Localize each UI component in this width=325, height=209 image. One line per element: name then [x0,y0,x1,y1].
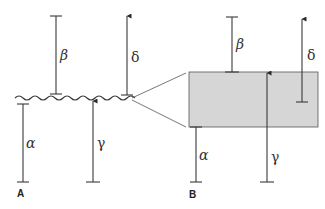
alpha-label-b: α [199,147,209,163]
panel-label-b: B [189,189,196,200]
diagram-canvas: α β γ δ A [0,0,325,209]
beta-bar-b: β [225,17,244,72]
delta-label-b: δ [307,47,315,63]
alpha-label-a: α [26,135,36,151]
alpha-bar-b: α [190,127,209,182]
beta-label-a: β [59,47,68,63]
panel-a: α β γ δ A [15,16,139,199]
wavy-surface-line [15,96,135,100]
gamma-label-a: γ [97,135,105,151]
delta-arrow-a: δ [121,16,139,95]
beta-label-b: β [235,36,244,52]
shaded-band [189,72,318,127]
panel-b: β γ δ α B [189,17,318,200]
alpha-bar-a: α [17,104,36,182]
delta-label-a: δ [131,49,139,65]
panel-label-a: A [17,188,24,199]
gamma-label-b: γ [271,149,279,165]
beta-bar-a: β [50,16,68,94]
gamma-arrow-a: γ [86,101,105,182]
zoom-callout-lines [132,73,186,127]
